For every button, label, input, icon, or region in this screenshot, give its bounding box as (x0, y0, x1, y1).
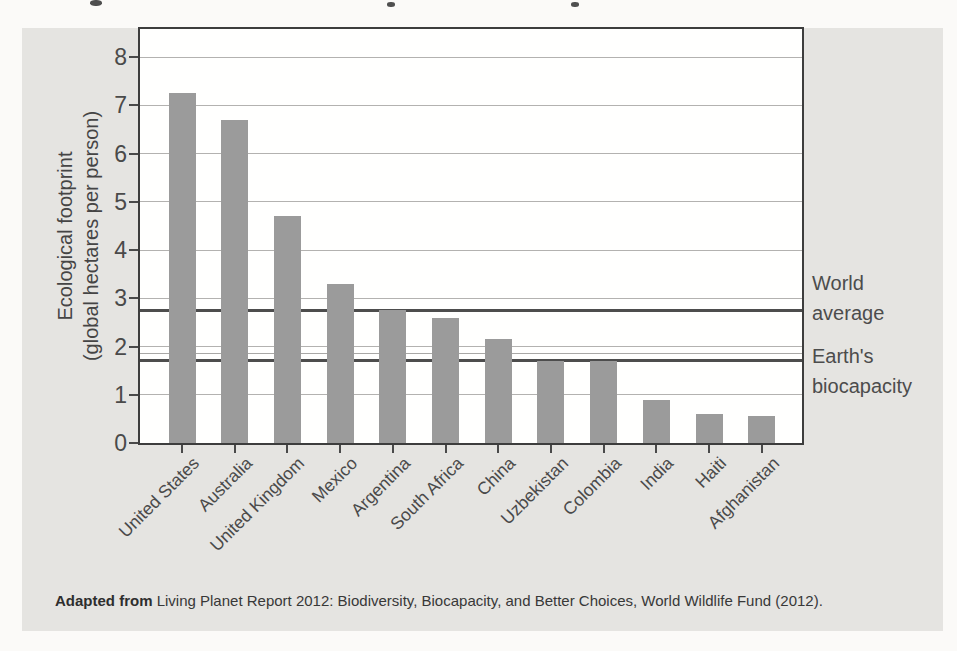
earths-biocapacity-label-line2: biocapacity (812, 371, 912, 401)
cropped-title-fragment (90, 0, 102, 6)
bar-argentina (379, 310, 406, 443)
y-axis-title: Ecological footprint (global hectares pe… (52, 111, 104, 361)
y-tick-4 (129, 249, 140, 251)
x-tick-haiti (708, 445, 710, 453)
x-tick-afghanistan (761, 445, 763, 453)
x-tick-uzbekistan (550, 445, 552, 453)
world-average-label: World average (812, 268, 884, 328)
y-tick-label-8: 8 (77, 44, 127, 70)
cropped-title-fragment (387, 2, 395, 7)
bar-united-states (169, 93, 196, 443)
bar-south-africa (432, 318, 459, 443)
x-tick-china (497, 445, 499, 453)
x-tick-colombia (603, 445, 605, 453)
source-caption-text: Living Planet Report 2012: Biodiversity,… (153, 592, 823, 609)
bar-haiti (696, 414, 723, 443)
source-caption: Adapted from Living Planet Report 2012: … (55, 592, 915, 609)
y-axis-title-line1: Ecological footprint (52, 111, 78, 361)
x-tick-argentina (392, 445, 394, 453)
bar-china (485, 339, 512, 443)
source-caption-prefix: Adapted from (55, 592, 153, 609)
y-tick-3 (129, 297, 140, 299)
x-tick-india (655, 445, 657, 453)
bar-colombia (590, 361, 617, 443)
bar-uzbekistan (537, 361, 564, 443)
world-average-label-line1: World (812, 268, 884, 298)
cropped-title-fragment (571, 2, 579, 7)
bar-australia (221, 120, 248, 443)
y-tick-label-0: 0 (77, 430, 127, 456)
x-tick-united-kingdom (286, 445, 288, 453)
y-tick-5 (129, 201, 140, 203)
y-tick-6 (129, 153, 140, 155)
world-average-label-line2: average (812, 298, 884, 328)
figure: 012345678United StatesAustraliaUnited Ki… (0, 0, 957, 651)
y-tick-0 (129, 442, 140, 444)
x-tick-south-africa (445, 445, 447, 453)
bar-mexico (327, 284, 354, 443)
gridline-7 (140, 105, 802, 106)
earths-biocapacity-label: Earth's biocapacity (812, 341, 912, 401)
bar-afghanistan (748, 416, 775, 443)
y-axis-title-line2: (global hectares per person) (78, 111, 104, 361)
y-tick-8 (129, 56, 140, 58)
y-tick-7 (129, 104, 140, 106)
y-tick-label-1: 1 (77, 382, 127, 408)
gridline-8 (140, 57, 802, 58)
x-tick-australia (234, 445, 236, 453)
x-tick-mexico (339, 445, 341, 453)
bar-united-kingdom (274, 216, 301, 443)
bar-india (643, 400, 670, 443)
earths-biocapacity-label-line1: Earth's (812, 341, 912, 371)
x-tick-united-states (181, 445, 183, 453)
y-tick-1 (129, 394, 140, 396)
y-tick-2 (129, 346, 140, 348)
